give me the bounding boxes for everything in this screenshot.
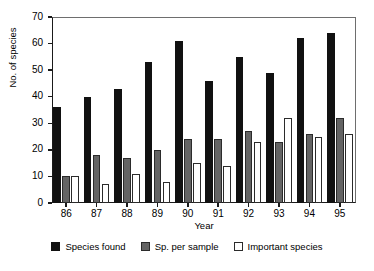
legend-label: Sp. per sample — [155, 241, 219, 252]
legend-swatch — [141, 242, 150, 251]
bar — [205, 81, 213, 203]
y-axis-tick-label: 20 — [32, 143, 43, 154]
bar — [93, 155, 101, 203]
bar — [154, 150, 162, 203]
x-axis-tick-mark — [339, 203, 341, 207]
bar — [306, 134, 314, 203]
y-axis-tick-mark — [48, 202, 52, 204]
bar-group — [114, 17, 141, 203]
bar — [114, 89, 122, 203]
bar — [71, 176, 79, 203]
bar-group — [327, 17, 354, 203]
x-axis-tick-mark — [157, 203, 159, 207]
legend-label: Important species — [248, 241, 323, 252]
legend-item: Sp. per sample — [141, 241, 219, 252]
y-axis-tick-label: 10 — [32, 170, 43, 181]
bar — [163, 182, 171, 203]
bar-group — [145, 17, 172, 203]
bar — [345, 134, 353, 203]
y-axis-tick-mark — [48, 96, 52, 98]
bar-group — [175, 17, 202, 203]
bar-group — [297, 17, 324, 203]
bar — [245, 131, 253, 203]
bar — [175, 41, 183, 203]
y-axis-tick-label: 40 — [32, 90, 43, 101]
x-axis-tick-label: 95 — [320, 208, 360, 219]
x-axis-tick-mark — [309, 203, 311, 207]
legend-swatch — [234, 242, 243, 251]
y-axis-tick-label: 60 — [32, 37, 43, 48]
legend-item: Important species — [234, 241, 323, 252]
x-axis-tick-mark — [65, 203, 67, 207]
x-axis-tick-mark — [217, 203, 219, 207]
bar — [184, 139, 192, 203]
x-axis-tick-mark — [248, 203, 250, 207]
bar — [193, 163, 201, 203]
y-axis-tick-label: 0 — [37, 197, 43, 208]
bar — [214, 139, 222, 203]
bar — [132, 174, 140, 203]
bar — [145, 62, 153, 203]
chart-figure: No. of species 010203040506070 868788899… — [0, 0, 374, 271]
y-axis-tick-mark — [48, 16, 52, 18]
bar — [336, 118, 344, 203]
y-axis-tick-mark — [48, 43, 52, 45]
chart-legend: Species foundSp. per sampleImportant spe… — [0, 241, 374, 252]
x-axis-title: Year — [52, 220, 356, 231]
x-axis-tick-mark — [187, 203, 189, 207]
legend-label: Species found — [65, 241, 125, 252]
bar-group — [84, 17, 111, 203]
bar — [254, 142, 262, 203]
bar — [315, 137, 323, 203]
bar — [102, 184, 110, 203]
y-axis-tick-mark — [48, 149, 52, 151]
bar — [53, 107, 61, 203]
x-axis-tick-mark — [126, 203, 128, 207]
y-axis-tick-label: 30 — [32, 117, 43, 128]
bar — [297, 38, 305, 203]
bar — [327, 33, 335, 203]
bar — [236, 57, 244, 203]
bar — [84, 97, 92, 203]
bar-group — [205, 17, 232, 203]
legend-swatch — [51, 242, 60, 251]
bar — [275, 142, 283, 203]
legend-item: Species found — [51, 241, 125, 252]
bar — [62, 176, 70, 203]
x-axis-tick-mark — [96, 203, 98, 207]
bar-group — [266, 17, 293, 203]
bar — [223, 166, 231, 203]
bar — [284, 118, 292, 203]
y-axis-title: No. of species — [7, 8, 18, 108]
bar-group — [236, 17, 263, 203]
y-axis-tick-mark — [48, 69, 52, 71]
bar — [123, 158, 131, 203]
bar-group — [53, 17, 80, 203]
bar — [266, 73, 274, 203]
y-axis-tick-mark — [48, 123, 52, 125]
y-axis-tick-mark — [48, 176, 52, 178]
x-axis-tick-mark — [278, 203, 280, 207]
y-axis-tick-label: 50 — [32, 64, 43, 75]
y-axis-tick-label: 70 — [32, 11, 43, 22]
